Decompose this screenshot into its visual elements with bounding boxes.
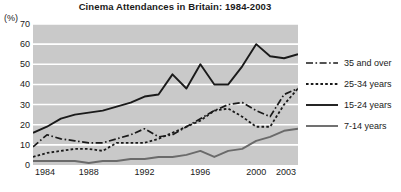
series-line [33, 129, 298, 163]
legend-label: 15-24 years [344, 100, 392, 110]
x-axis-tick: 2003 [276, 167, 296, 177]
legend-label: 35 and over [344, 58, 392, 68]
legend-line-swatch [305, 79, 339, 89]
x-axis-tick: 1992 [135, 167, 155, 177]
x-axis-tick: 1988 [79, 167, 99, 177]
legend-item[interactable]: 15-24 years [305, 94, 401, 115]
y-axis-unit-label: (%) [4, 13, 18, 23]
series-line [33, 88, 298, 156]
series-line [33, 44, 298, 133]
legend-item[interactable]: 25-34 years [305, 73, 401, 94]
y-axis-tick-labels: 010203040506070 [0, 24, 30, 165]
series-line [33, 88, 298, 146]
legend-line-swatch [305, 121, 339, 131]
y-axis-tick: 10 [20, 140, 30, 150]
y-axis-tick: 40 [20, 79, 30, 89]
y-axis-tick: 60 [20, 39, 30, 49]
y-axis-tick: 70 [20, 19, 30, 29]
legend-line-swatch [305, 58, 339, 68]
legend-item[interactable]: 7-14 years [305, 115, 401, 136]
y-axis-tick: 50 [20, 59, 30, 69]
x-axis-tick: 1984 [35, 167, 55, 177]
legend-item[interactable]: 35 and over [305, 52, 401, 73]
legend-line-swatch [305, 100, 339, 110]
chart-container: Cinema Attendances in Britain: 1984-2003… [0, 0, 401, 192]
y-axis-tick: 20 [20, 120, 30, 130]
plot-area [33, 24, 298, 165]
legend-label: 7-14 years [344, 121, 387, 131]
legend-label: 25-34 years [344, 79, 392, 89]
y-axis-tick: 0 [25, 160, 30, 170]
chart-title: Cinema Attendances in Britain: 1984-2003 [60, 1, 290, 12]
chart-legend: 35 and over25-34 years15-24 years7-14 ye… [305, 52, 401, 136]
x-axis-tick: 1996 [190, 167, 210, 177]
x-axis-tick-labels: 198419881992199620002003 [33, 167, 298, 183]
plot-lines [33, 24, 298, 165]
y-axis-tick: 30 [20, 100, 30, 110]
x-axis-tick: 2000 [246, 167, 266, 177]
